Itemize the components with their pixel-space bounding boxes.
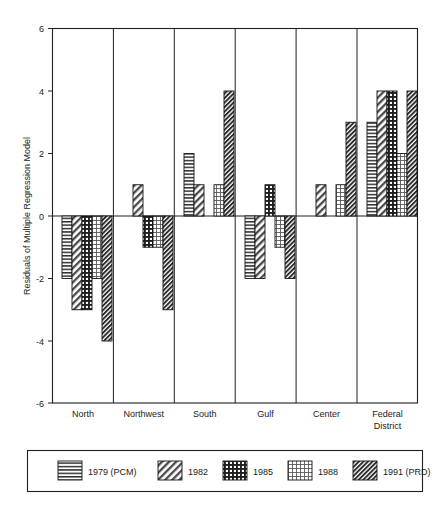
legend-label-1988: 1988 (318, 467, 338, 477)
bar-gulf-1988[interactable] (275, 216, 285, 247)
x-label-gulf: Gulf (257, 409, 274, 419)
legend-swatch-1988 (288, 461, 312, 480)
bar-south-1988[interactable] (214, 185, 224, 216)
x-label-south: South (193, 409, 217, 419)
legend-label-1985: 1985 (253, 467, 273, 477)
bar-northwest-1982[interactable] (133, 185, 143, 216)
bar-northwest-1988[interactable] (153, 216, 163, 247)
bar-gulf-1979[interactable] (245, 216, 255, 279)
bar-gulf-1991[interactable] (285, 216, 295, 279)
y-tick-label-minus6: -6 (36, 399, 44, 409)
x-label-federal-district-line1: Federal (372, 409, 403, 419)
bar-north-1991[interactable] (102, 216, 112, 341)
y-tick-label-6: 6 (39, 24, 44, 34)
bar-south-1982[interactable] (194, 185, 204, 216)
y-axis-title: Residuals of Multiple Regression Model (22, 137, 32, 295)
bar-north-1979[interactable] (62, 216, 72, 279)
legend-swatch-1982 (158, 461, 182, 480)
chart-figure: 6 4 2 0 -2 -4 -6 Residuals of Multiple R… (0, 0, 444, 509)
legend-label-1991: 1991 (PRD) (383, 467, 431, 477)
x-label-northwest: Northwest (124, 409, 165, 419)
y-tick-label-0: 0 (39, 212, 44, 222)
residuals-grouped-bar-chart: 6 4 2 0 -2 -4 -6 Residuals of Multiple R… (0, 0, 444, 509)
bar-federal-district-1979[interactable] (367, 122, 377, 216)
bar-gulf-1985[interactable] (265, 185, 275, 216)
x-label-north: North (72, 409, 94, 419)
y-tick-label-2: 2 (39, 149, 44, 159)
legend-swatch-1979 (58, 461, 82, 480)
bar-federal-district-1982[interactable] (377, 91, 387, 216)
bar-northwest-1985[interactable] (143, 216, 153, 247)
bar-northwest-1991[interactable] (163, 216, 173, 310)
bar-gulf-1982[interactable] (255, 216, 265, 279)
bar-center-1988[interactable] (336, 185, 346, 216)
bar-federal-district-1988[interactable] (397, 154, 407, 217)
bar-south-1979[interactable] (184, 154, 194, 217)
bar-center-1982[interactable] (316, 185, 326, 216)
x-label-federal-district-line2: District (374, 421, 402, 431)
y-tick-label-minus4: -4 (36, 337, 44, 347)
legend-label-1979: 1979 (PCM) (88, 467, 137, 477)
bar-center-1991[interactable] (346, 122, 356, 216)
bar-north-1982[interactable] (72, 216, 82, 310)
bar-federal-district-1991[interactable] (407, 91, 417, 216)
y-tick-label-minus2: -2 (36, 274, 44, 284)
legend-label-1982: 1982 (188, 467, 208, 477)
bar-federal-district-1985[interactable] (387, 91, 397, 216)
legend-swatch-1985 (223, 461, 247, 480)
legend-swatch-1991 (353, 461, 377, 480)
bar-north-1988[interactable] (92, 216, 102, 279)
bar-south-1991[interactable] (224, 91, 234, 216)
x-label-center: Center (313, 409, 340, 419)
bar-north-1985[interactable] (82, 216, 92, 310)
y-tick-label-4: 4 (39, 87, 44, 97)
